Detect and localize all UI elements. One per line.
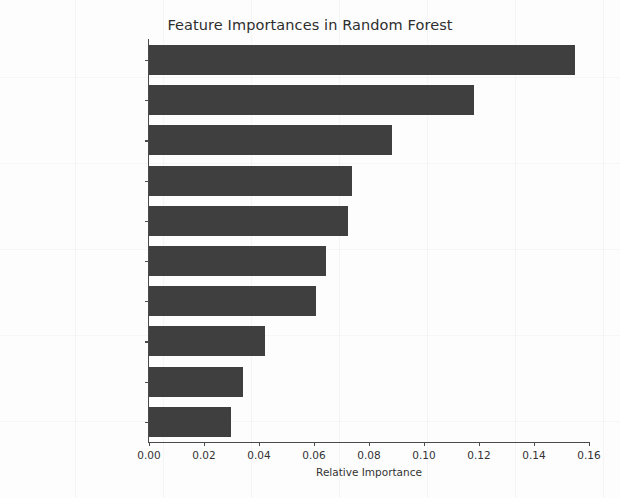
- y-axis-tick: [145, 301, 149, 302]
- bar: [149, 206, 348, 236]
- y-axis-tick: [145, 181, 149, 182]
- bar: [149, 286, 316, 316]
- chart-title: Feature Importances in Random Forest: [0, 17, 620, 33]
- x-axis-tick: [149, 442, 150, 446]
- x-axis-tick-label: 0.12: [467, 449, 490, 461]
- bar-row: last_flag: [149, 201, 589, 241]
- x-axis-tick: [314, 442, 315, 446]
- x-axis-tick: [424, 442, 425, 446]
- bar: [149, 407, 231, 437]
- x-axis-tick: [259, 442, 260, 446]
- bar-row: logged_in: [149, 402, 589, 442]
- bar-row: count: [149, 321, 589, 361]
- y-axis-tick: [145, 100, 149, 101]
- bar-row: dst_bytes: [149, 80, 589, 120]
- x-axis-tick-label: 0.14: [522, 449, 545, 461]
- y-axis-tick: [145, 382, 149, 383]
- bar-row: dst_host_same_srv_rate: [149, 241, 589, 281]
- y-axis-tick: [145, 140, 149, 141]
- bar: [149, 45, 575, 75]
- bar-row: src_bytes: [149, 40, 589, 80]
- bar: [149, 367, 243, 397]
- x-axis-tick: [204, 442, 205, 446]
- x-axis-tick-label: 0.00: [137, 449, 160, 461]
- x-axis-tick: [534, 442, 535, 446]
- chart-figure: Feature Importances in Random Forest src…: [0, 0, 620, 498]
- y-axis-tick: [145, 261, 149, 262]
- x-axis-tick-label: 0.06: [302, 449, 325, 461]
- plot-area: src_bytesdst_bytesflagsame_srv_ratelast_…: [149, 40, 589, 442]
- bar: [149, 246, 326, 276]
- x-axis-title: Relative Importance: [149, 466, 589, 478]
- x-axis-tick-label: 0.10: [412, 449, 435, 461]
- x-axis-tick: [589, 442, 590, 446]
- bar: [149, 125, 392, 155]
- bar-row: dst_host_srv_count: [149, 281, 589, 321]
- y-axis-tick: [145, 221, 149, 222]
- y-axis-tick: [145, 422, 149, 423]
- bar-row: flag: [149, 120, 589, 160]
- x-axis-tick-label: 0.16: [577, 449, 600, 461]
- bar: [149, 166, 352, 196]
- bar-row: "diff_srv_rate": [149, 362, 589, 402]
- y-axis-tick: [145, 341, 149, 342]
- x-axis-tick-label: 0.04: [247, 449, 270, 461]
- x-axis-tick: [369, 442, 370, 446]
- x-axis-tick: [479, 442, 480, 446]
- y-axis-tick: [145, 60, 149, 61]
- x-axis-tick-label: 0.08: [357, 449, 380, 461]
- x-axis-tick-label: 0.02: [192, 449, 215, 461]
- bar: [149, 326, 265, 356]
- bar: [149, 85, 474, 115]
- bar-row: same_srv_rate: [149, 161, 589, 201]
